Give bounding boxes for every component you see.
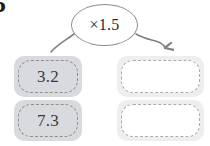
answer-cell-row-2[interactable] <box>117 100 204 141</box>
dashed-outline <box>121 60 200 93</box>
operator-label: ×1.5 <box>71 4 138 46</box>
input-value-row-1: 3.2 <box>37 68 59 86</box>
input-cell-row-2: 7.3 <box>14 100 82 141</box>
dashed-outline <box>121 104 200 137</box>
operator-bubble: ×1.5 <box>71 4 138 46</box>
input-value-row-2: 7.3 <box>37 112 59 130</box>
answer-cell-row-1[interactable] <box>117 56 204 97</box>
input-cell-row-1: 3.2 <box>14 56 82 97</box>
arrow-right-curve <box>136 34 165 48</box>
exercise-number: 5 <box>0 0 6 17</box>
worksheet-exercise-panel: 5 ×1.5 3.2 7.3 <box>0 0 210 146</box>
